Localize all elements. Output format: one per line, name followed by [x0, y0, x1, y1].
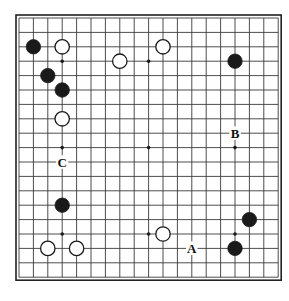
- star-point: [60, 59, 64, 63]
- black-stone: [242, 212, 256, 226]
- star-point: [60, 146, 64, 150]
- star-point: [147, 59, 151, 63]
- star-point: [233, 232, 237, 236]
- black-stone: [228, 54, 242, 68]
- white-stone: [41, 241, 55, 255]
- black-stone: [228, 241, 242, 255]
- white-stone: [55, 40, 69, 54]
- board-label-a: A: [186, 242, 197, 255]
- star-point: [147, 232, 151, 236]
- board-label-c: C: [56, 156, 67, 169]
- black-stone: [41, 68, 55, 82]
- star-point: [233, 146, 237, 150]
- board-label-b: B: [230, 127, 241, 140]
- white-stone: [156, 227, 170, 241]
- white-stone: [113, 54, 127, 68]
- go-board-svg: [0, 0, 289, 301]
- white-stone: [55, 112, 69, 126]
- go-board-diagram: ABC: [0, 0, 289, 301]
- star-point: [60, 232, 64, 236]
- white-stone: [69, 241, 83, 255]
- white-stone: [156, 40, 170, 54]
- black-stone: [26, 40, 40, 54]
- black-stone: [55, 198, 69, 212]
- star-point: [147, 146, 151, 150]
- black-stone: [55, 83, 69, 97]
